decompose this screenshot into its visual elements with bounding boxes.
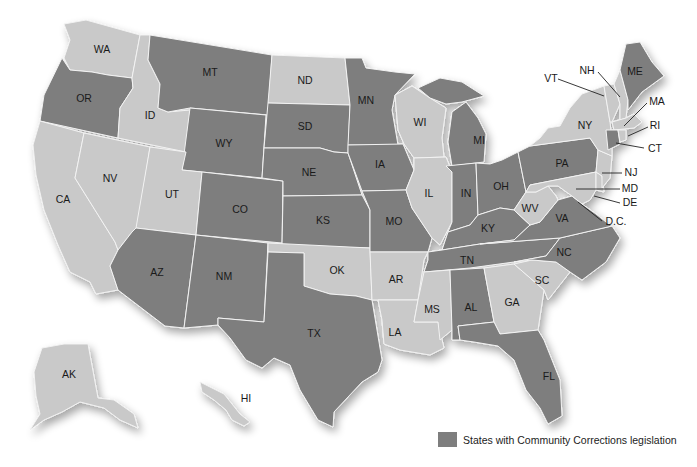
legend-label: States with Community Corrections legisl… bbox=[463, 434, 677, 446]
label-ut: UT bbox=[165, 188, 180, 200]
label-ky: KY bbox=[481, 222, 495, 234]
label-ks: KS bbox=[316, 214, 330, 226]
label-ms: MS bbox=[424, 303, 440, 315]
label-nc: NC bbox=[556, 246, 572, 258]
label-id: ID bbox=[145, 109, 156, 121]
state-az[interactable] bbox=[110, 228, 196, 328]
label-nj: NJ bbox=[625, 166, 638, 178]
label-wi: WI bbox=[414, 116, 427, 128]
state-ri[interactable] bbox=[618, 130, 626, 142]
label-nm: NM bbox=[216, 270, 232, 282]
label-or: OR bbox=[76, 92, 92, 104]
label-oh: OH bbox=[493, 180, 509, 192]
label-hi: HI bbox=[241, 392, 252, 404]
label-fl: FL bbox=[543, 370, 555, 382]
label-ga: GA bbox=[504, 296, 519, 308]
state-hi[interactable] bbox=[200, 382, 250, 426]
label-wv: WV bbox=[522, 202, 539, 214]
label-tn: TN bbox=[460, 254, 474, 266]
label-ny: NY bbox=[578, 119, 593, 131]
label-in: IN bbox=[461, 187, 472, 199]
us-map: WA OR CA ID NV MT WY UT AZ CO NM ND SD N… bbox=[0, 0, 697, 467]
label-sc: SC bbox=[535, 274, 550, 286]
label-mt: MT bbox=[202, 66, 218, 78]
label-md: MD bbox=[622, 182, 639, 194]
label-la: LA bbox=[389, 326, 402, 338]
state-ct[interactable] bbox=[606, 130, 620, 150]
label-nd: ND bbox=[297, 74, 313, 86]
label-ok: OK bbox=[329, 264, 344, 276]
label-il: IL bbox=[425, 187, 434, 199]
map-legend: States with Community Corrections legisl… bbox=[438, 432, 677, 447]
label-mn: MN bbox=[358, 94, 374, 106]
label-wa: WA bbox=[94, 43, 111, 55]
label-co: CO bbox=[232, 203, 248, 215]
label-pa: PA bbox=[555, 157, 568, 169]
label-ca: CA bbox=[56, 193, 71, 205]
label-ri: RI bbox=[650, 119, 661, 131]
label-al: AL bbox=[465, 301, 478, 313]
label-sd: SD bbox=[298, 120, 313, 132]
label-ar: AR bbox=[389, 273, 404, 285]
label-az: AZ bbox=[150, 266, 164, 278]
label-va: VA bbox=[555, 212, 568, 224]
state-ak[interactable] bbox=[30, 344, 138, 430]
label-dc: D.C. bbox=[606, 215, 627, 227]
label-me: ME bbox=[627, 65, 643, 77]
legend-swatch bbox=[438, 432, 457, 447]
label-ma: MA bbox=[649, 95, 665, 107]
label-nv: NV bbox=[103, 172, 118, 184]
label-nh: NH bbox=[579, 64, 594, 76]
label-ne: NE bbox=[302, 166, 317, 178]
label-wy: WY bbox=[216, 137, 233, 149]
label-tx: TX bbox=[307, 327, 320, 339]
state-ma[interactable] bbox=[612, 114, 642, 130]
label-mo: MO bbox=[386, 215, 403, 227]
label-de: DE bbox=[623, 196, 638, 208]
label-ak: AK bbox=[62, 368, 76, 380]
label-mi: MI bbox=[473, 134, 485, 146]
label-ia: IA bbox=[375, 158, 385, 170]
label-ct: CT bbox=[648, 142, 663, 154]
label-vt: VT bbox=[544, 72, 558, 84]
